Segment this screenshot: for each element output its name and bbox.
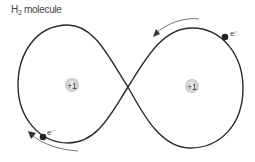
svg-text:e⁻: e⁻ [230, 29, 238, 38]
nucleus-left: +1 [65, 78, 79, 92]
svg-text:+1: +1 [187, 82, 197, 92]
h2-orbital-diagram: +1 +1 e⁻ e⁻ [0, 0, 255, 162]
electron-upper-right: e⁻ [222, 29, 239, 40]
svg-text:+1: +1 [67, 81, 77, 91]
nucleus-right: +1 [185, 79, 199, 93]
svg-text:e⁻: e⁻ [47, 128, 55, 137]
